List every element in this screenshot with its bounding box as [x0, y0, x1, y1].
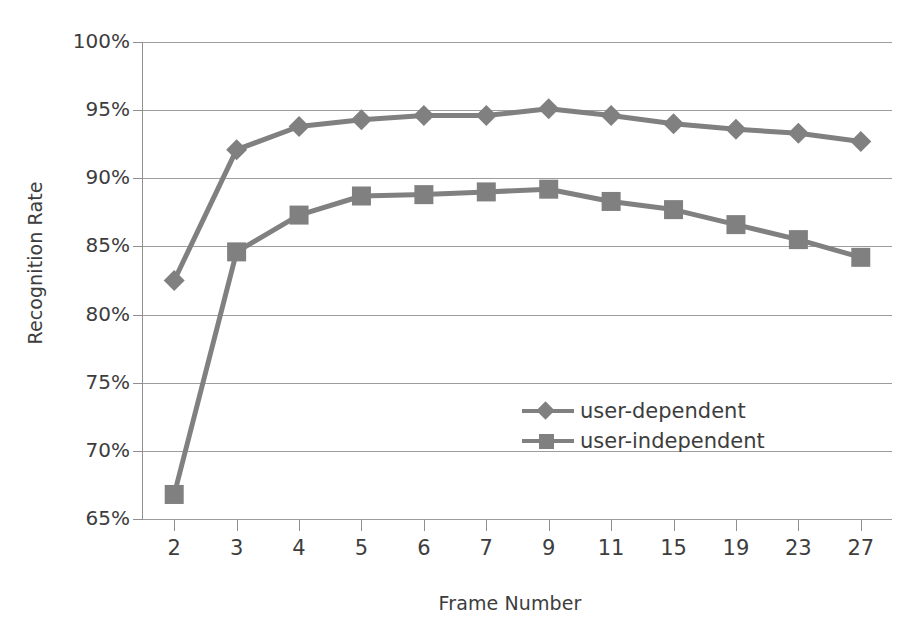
y-tick-label: 95%	[42, 97, 130, 121]
gridline	[143, 383, 892, 384]
y-tick-mark	[133, 246, 143, 247]
y-tick-label-row: 65%	[0, 519, 130, 520]
gridline	[143, 110, 892, 111]
y-tick-label-row: 80%	[0, 315, 130, 316]
x-tick-label: 3	[207, 536, 267, 560]
y-tick-mark	[133, 178, 143, 179]
x-tick-mark	[237, 520, 238, 531]
legend-label: user-dependent	[580, 399, 746, 423]
x-tick-label: 6	[394, 536, 454, 560]
x-tick-label: 7	[456, 536, 516, 560]
x-tick-label: 4	[269, 536, 329, 560]
x-tick-label: 19	[706, 536, 766, 560]
y-tick-label-row: 95%	[0, 110, 130, 111]
gridline	[143, 42, 892, 43]
legend-item-user-dependent[interactable]: user-dependent	[522, 396, 765, 426]
x-tick-mark	[424, 520, 425, 531]
y-tick-label: 85%	[42, 233, 130, 257]
y-tick-label: 75%	[42, 370, 130, 394]
x-axis-title: Frame Number	[128, 592, 892, 614]
legend: user-dependentuser-independent	[516, 392, 773, 462]
gridline	[143, 246, 892, 247]
x-tick-mark	[861, 520, 862, 531]
x-tick-mark	[299, 520, 300, 531]
recognition-rate-line-chart: Recognition Rate Frame Number 100%95%90%…	[0, 0, 918, 644]
y-tick-label-row: 75%	[0, 383, 130, 384]
y-tick-mark	[133, 42, 143, 43]
legend-marker	[536, 401, 554, 419]
x-tick-label: 15	[644, 536, 704, 560]
y-tick-label-row: 90%	[0, 178, 130, 179]
y-tick-label-row: 85%	[0, 246, 130, 247]
gridline	[143, 519, 892, 520]
y-tick-label-row: 70%	[0, 451, 130, 452]
x-tick-mark	[798, 520, 799, 531]
x-tick-label: 27	[831, 536, 891, 560]
y-tick-label: 80%	[42, 302, 130, 326]
y-tick-mark	[133, 315, 143, 316]
legend-label: user-independent	[580, 429, 765, 453]
legend-diamond-icon	[522, 400, 574, 422]
y-tick-mark	[133, 451, 143, 452]
legend-item-user-independent[interactable]: user-independent	[522, 426, 765, 456]
x-tick-label: 5	[331, 536, 391, 560]
x-tick-mark	[674, 520, 675, 531]
gridline	[143, 178, 892, 179]
x-tick-label: 2	[144, 536, 204, 560]
y-tick-mark	[133, 110, 143, 111]
x-tick-mark	[486, 520, 487, 531]
x-tick-mark	[549, 520, 550, 531]
x-tick-mark	[361, 520, 362, 531]
y-tick-label: 100%	[42, 29, 130, 53]
x-tick-label: 11	[581, 536, 641, 560]
x-tick-label: 23	[768, 536, 828, 560]
legend-square-icon	[522, 430, 574, 452]
y-tick-mark	[133, 519, 143, 520]
gridline	[143, 315, 892, 316]
x-tick-label: 9	[519, 536, 579, 560]
y-tick-label: 70%	[42, 438, 130, 462]
x-tick-mark	[611, 520, 612, 531]
x-tick-mark	[736, 520, 737, 531]
x-tick-mark	[174, 520, 175, 531]
legend-marker	[539, 434, 554, 449]
y-tick-label: 65%	[42, 506, 130, 530]
y-tick-label-row: 100%	[0, 42, 130, 43]
y-tick-mark	[133, 383, 143, 384]
y-tick-label: 90%	[42, 165, 130, 189]
